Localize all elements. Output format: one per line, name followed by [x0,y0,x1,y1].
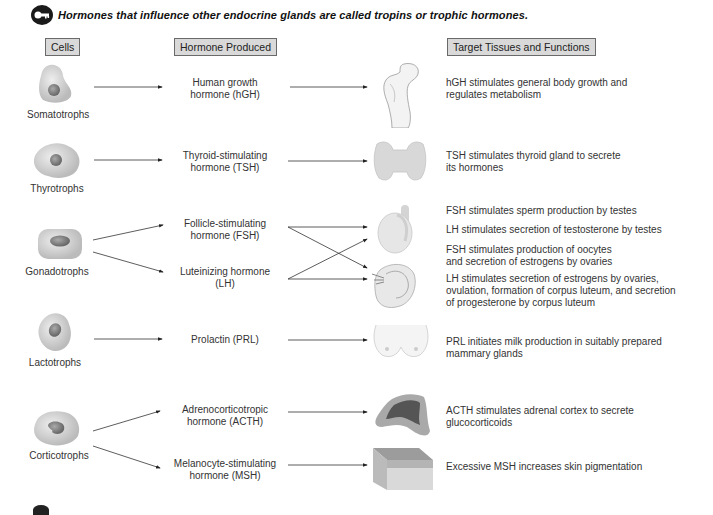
adrenal-icon [372,393,434,443]
hormone-acth: Adrenocorticotropic hormone (ACTH) [165,404,285,428]
hormone-lh: Luteinizing hormone (LH) [170,266,280,290]
skin-icon [373,446,433,496]
cell-label-corticotrophs: Corticotrophs [24,450,94,461]
function-lh-ovaries: LH stimulates secretion of estrogens by … [446,273,676,309]
corticotroph-cell-icon [30,408,82,452]
ovary-icon [370,260,418,314]
hormone-line: Human growth [170,77,280,89]
function-line: regulates metabolism [446,89,627,101]
hormone-line: Follicle-stimulating [170,218,280,230]
function-line: its hormones [446,162,621,174]
function-fsh-testes: FSH stimulates sperm production by teste… [446,205,637,217]
gonadotroph-cell-icon [37,228,83,264]
function-line: hGH stimulates general body growth and [446,77,627,89]
function-fsh-ovaries: FSH stimulates production of oocytes and… [446,244,612,268]
hormone-msh: Melanocyte-stimulating hormone (MSH) [165,458,285,482]
hormone-line: hormone (hGH) [170,89,280,101]
function-tsh: TSH stimulates thyroid gland to secrete … [446,150,621,174]
function-line: Excessive MSH increases skin pigmentatio… [446,461,642,473]
hormone-line: Adrenocorticotropic [165,404,285,416]
hormone-fsh: Follicle-stimulating hormone (FSH) [170,218,280,242]
hormone-line: Melanocyte-stimulating [165,458,285,470]
cell-label-gonadotrophs: Gonadotrophs [22,266,92,277]
function-line: TSH stimulates thyroid gland to secrete [446,150,621,162]
function-hgh: hGH stimulates general body growth and r… [446,77,627,101]
function-line: FSH stimulates sperm production by teste… [446,205,637,217]
hormone-line: Thyroid-stimulating [170,150,280,162]
function-prl: PRL initiates milk production in suitabl… [446,336,662,360]
bone-icon [380,62,424,132]
function-line: mammary glands [446,348,662,360]
hormone-line: hormone (TSH) [170,162,280,174]
hormone-line: hormone (FSH) [170,230,280,242]
function-acth: ACTH stimulates adrenal cortex to secret… [446,405,634,429]
testis-icon [375,203,421,259]
hormone-line: hormone (ACTH) [165,416,285,428]
function-line: FSH stimulates production of oocytes [446,244,612,256]
function-msh: Excessive MSH increases skin pigmentatio… [446,461,642,473]
thyroid-icon [373,140,427,186]
function-line: ACTH stimulates adrenal cortex to secret… [446,405,634,417]
cell-label-thyrotrophs: Thyrotrophs [27,183,87,194]
function-line: LH stimulates secretion of estrogens by … [446,273,676,285]
function-line: of progesterone by corpus luteum [446,297,676,309]
hormone-prl: Prolactin (PRL) [170,334,280,346]
mammary-icon [372,323,430,363]
lactotroph-cell-icon [35,310,75,358]
cell-label-lactotrophs: Lactotrophs [25,357,85,368]
hormone-line: Luteinizing hormone [170,266,280,278]
cell-label-somatotrophs: Somatotrophs [27,109,87,120]
hormone-line: (LH) [170,278,280,290]
thyrotroph-cell-icon [28,140,84,186]
function-line: and secretion of estrogens by ovaries [446,256,612,268]
hormone-hgh: Human growth hormone (hGH) [170,77,280,101]
partial-key-icon [33,505,49,515]
function-line: glucocorticoids [446,417,634,429]
hormone-line: Prolactin (PRL) [170,334,280,346]
hormone-tsh: Thyroid-stimulating hormone (TSH) [170,150,280,174]
function-lh-testes: LH stimulates secretion of testosterone … [446,224,662,236]
function-line: ovulation, formation of corpus luteum, a… [446,285,676,297]
hormone-line: hormone (MSH) [165,470,285,482]
function-line: LH stimulates secretion of testosterone … [446,224,662,236]
function-line: PRL initiates milk production in suitabl… [446,336,662,348]
somatotroph-cell-icon [33,62,77,110]
